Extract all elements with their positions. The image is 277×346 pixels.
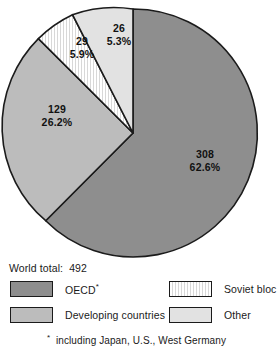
pie-chart-area: 308 62.6% 129 26.2% 29 5.9% 26 5.3% bbox=[0, 0, 267, 266]
legend-item-other[interactable]: Other bbox=[169, 307, 251, 323]
legend-item-developing-countries[interactable]: Developing countries bbox=[10, 307, 165, 323]
chart-footnote: * including Japan, U.S., West Germany bbox=[0, 333, 267, 346]
world-total-label: World total: 492 bbox=[9, 262, 87, 274]
slice-label-other-value: 26 bbox=[113, 22, 125, 34]
legend-swatch-developing-countries bbox=[10, 307, 53, 323]
legend-swatch-soviet-bloc bbox=[169, 281, 212, 297]
slice-label-oecd-value: 308 bbox=[196, 148, 214, 160]
chart-legend: World total: 492 OECD* Soviet bloc Devel… bbox=[0, 262, 267, 343]
slice-label-developing-countries-value: 129 bbox=[48, 103, 66, 115]
slice-label-soviet-bloc-value: 29 bbox=[76, 35, 88, 47]
slice-label-developing-countries-percent: 26.2% bbox=[42, 116, 73, 128]
asterisk-marker-icon: * bbox=[96, 282, 99, 291]
slice-label-soviet-bloc-percent: 5.9% bbox=[70, 48, 95, 60]
legend-label-other: Other bbox=[224, 309, 251, 321]
legend-item-soviet-bloc[interactable]: Soviet bloc bbox=[169, 281, 276, 297]
legend-swatch-other bbox=[169, 307, 212, 323]
legend-item-oecd[interactable]: OECD* bbox=[10, 281, 99, 297]
legend-label-soviet-bloc: Soviet bloc bbox=[224, 283, 276, 295]
legend-label-developing-countries: Developing countries bbox=[65, 309, 165, 321]
legend-grid: OECD* Soviet bloc Developing countries O… bbox=[0, 281, 267, 333]
legend-label-oecd: OECD* bbox=[65, 282, 99, 296]
legend-row: Developing countries Other bbox=[0, 307, 267, 333]
pie-svg: 308 62.6% 129 26.2% 29 5.9% 26 5.3% bbox=[0, 0, 267, 266]
slice-label-other-percent: 5.3% bbox=[107, 35, 132, 47]
footnote-text: including Japan, U.S., West Germany bbox=[50, 335, 226, 346]
legend-swatch-oecd bbox=[10, 281, 53, 297]
slice-label-oecd-percent: 62.6% bbox=[190, 161, 221, 173]
legend-label-oecd-text: OECD bbox=[65, 284, 96, 296]
legend-row: OECD* Soviet bloc bbox=[0, 281, 267, 307]
